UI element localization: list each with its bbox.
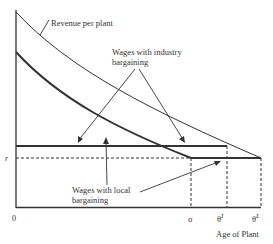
arrowhead-icon	[103, 137, 109, 144]
theta-i-label: θI	[217, 212, 224, 224]
r-label: r	[5, 154, 9, 163]
sigma-label: σ	[188, 214, 193, 224]
arrowhead-icon	[78, 136, 83, 143]
x-axis-label: Age of Plant	[216, 229, 260, 239]
local-wage-curve	[16, 52, 191, 158]
revenue-pointer	[40, 20, 49, 35]
local-label-2: bargaining	[72, 195, 109, 205]
revenue-label: Revenue per plant	[51, 18, 113, 28]
origin-label: 0	[12, 214, 16, 223]
industry-pointer-right	[139, 69, 184, 141]
industry-label-2: bargaining	[112, 57, 149, 67]
local-pointer-right	[140, 162, 218, 192]
industry-label-1: Wages with industry	[112, 47, 182, 57]
local-label-1: Wages with local	[72, 185, 131, 195]
theta-l-label: θL	[252, 212, 260, 224]
arrowhead-icon	[214, 161, 221, 166]
economics-diagram: Revenue per plant Wages with industry ba…	[0, 0, 273, 244]
